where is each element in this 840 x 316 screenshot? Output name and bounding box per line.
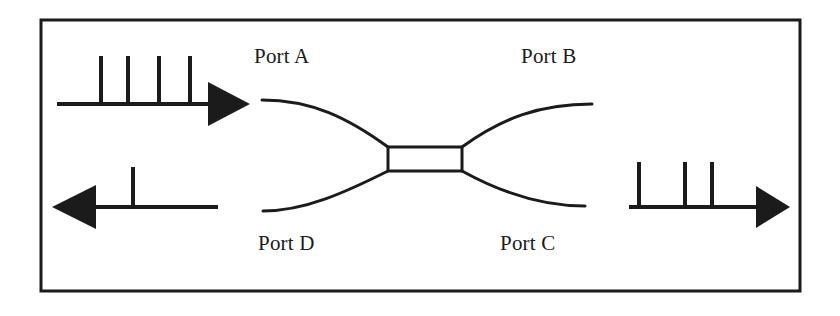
coupling-region <box>388 147 462 171</box>
signal-group <box>52 56 790 229</box>
output-pulse-train-port-c <box>629 162 790 228</box>
port-b-label: Port B <box>521 44 576 69</box>
waveguide-port-d <box>263 171 388 211</box>
port-d-label: Port D <box>258 231 315 256</box>
waveguide-port-c <box>462 171 585 206</box>
diagram-canvas <box>0 0 840 316</box>
waveguide-port-a <box>262 100 388 147</box>
arrowhead <box>208 82 250 126</box>
arrowhead <box>52 185 96 229</box>
input-pulse-train-port-a <box>57 56 250 126</box>
coupler-diagram: Port A Port B Port D Port C <box>0 0 840 316</box>
arrowhead <box>756 186 790 228</box>
waveguide-port-b <box>462 104 592 147</box>
port-c-label: Port C <box>500 231 555 256</box>
output-pulse-train-port-d <box>52 167 218 229</box>
port-a-label: Port A <box>254 44 309 69</box>
